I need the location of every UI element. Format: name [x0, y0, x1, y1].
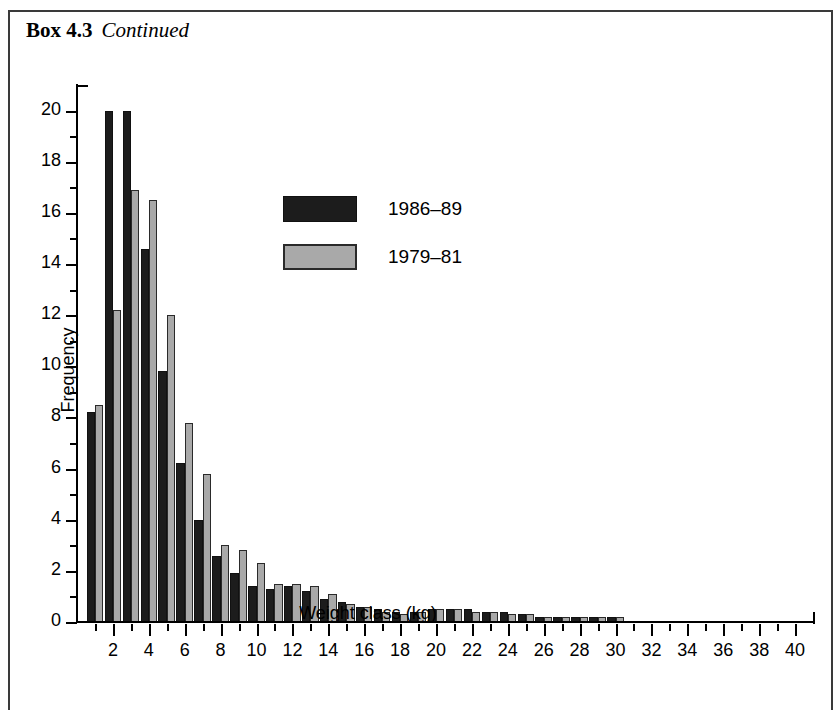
x-tick-minor: [669, 624, 671, 631]
x-tick-minor: [95, 624, 97, 631]
x-axis-end-tick: [813, 612, 815, 624]
y-tick-major: [66, 366, 77, 368]
x-tick-label: 38: [739, 640, 779, 661]
figure-page: Box 4.3Continued Frequency Weight class …: [0, 0, 837, 710]
bar: [274, 584, 282, 622]
x-tick-label: 34: [667, 640, 707, 661]
x-tick-major: [185, 624, 187, 636]
y-tick-minor: [70, 341, 77, 343]
bar: [257, 563, 265, 622]
bar: [203, 474, 211, 622]
x-tick-major: [580, 624, 582, 636]
x-tick-label: 20: [416, 640, 456, 661]
x-tick-minor: [741, 624, 743, 631]
x-tick-label: 40: [775, 640, 815, 661]
x-tick-major: [113, 624, 115, 636]
x-tick-minor: [382, 624, 384, 631]
x-tick-label: 18: [380, 640, 420, 661]
x-tick-label: 32: [631, 640, 671, 661]
x-tick-major: [328, 624, 330, 636]
y-axis-line: [76, 84, 78, 623]
y-tick-major: [66, 520, 77, 522]
x-tick-label: 28: [560, 640, 600, 661]
x-tick-minor: [274, 624, 276, 631]
x-tick-major: [149, 624, 151, 636]
legend-swatch: [283, 244, 357, 270]
y-tick-major: [66, 315, 77, 317]
bar: [284, 586, 292, 622]
y-axis-top-tick: [77, 85, 88, 87]
bar: [248, 586, 256, 622]
bar: [230, 573, 238, 622]
x-tick-minor: [167, 624, 169, 631]
bar: [239, 550, 247, 622]
bar: [176, 463, 184, 622]
y-tick-label: 2: [0, 559, 61, 580]
x-tick-label: 30: [596, 640, 636, 661]
x-tick-label: 26: [524, 640, 564, 661]
legend-swatch: [283, 196, 357, 222]
y-tick-major: [66, 213, 77, 215]
y-tick-label: 14: [0, 252, 61, 273]
y-tick-label: 4: [0, 508, 61, 529]
x-tick-minor: [203, 624, 205, 631]
x-tick-label: 14: [308, 640, 348, 661]
y-tick-minor: [70, 392, 77, 394]
y-tick-minor: [70, 443, 77, 445]
bar: [158, 371, 166, 622]
x-tick-label: 4: [129, 640, 169, 661]
y-tick-label: 6: [0, 457, 61, 478]
x-tick-minor: [490, 624, 492, 631]
legend-label: 1979–81: [388, 246, 462, 268]
bar: [141, 249, 149, 622]
bar: [149, 200, 157, 622]
x-tick-major: [292, 624, 294, 636]
bar: [105, 111, 113, 622]
x-tick-major: [723, 624, 725, 636]
x-tick-minor: [562, 624, 564, 631]
x-tick-major: [472, 624, 474, 636]
bar-group: [77, 85, 813, 622]
y-tick-major: [66, 622, 77, 624]
bar: [87, 412, 95, 622]
x-tick-label: 22: [452, 640, 492, 661]
x-tick-major: [400, 624, 402, 636]
x-tick-major: [651, 624, 653, 636]
y-tick-minor: [70, 136, 77, 138]
y-tick-major: [66, 162, 77, 164]
y-tick-minor: [70, 238, 77, 240]
bar: [123, 111, 131, 622]
x-tick-minor: [526, 624, 528, 631]
x-tick-minor: [598, 624, 600, 631]
y-tick-minor: [70, 596, 77, 598]
x-tick-minor: [346, 624, 348, 631]
y-tick-major: [66, 417, 77, 419]
y-tick-major: [66, 571, 77, 573]
y-tick-label: 8: [0, 405, 61, 426]
x-tick-label: 24: [488, 640, 528, 661]
y-tick-label: 16: [0, 201, 61, 222]
y-tick-label: 18: [0, 150, 61, 171]
x-tick-minor: [418, 624, 420, 631]
y-tick-label: 10: [0, 354, 61, 375]
box-title-bold: Box 4.3: [26, 18, 93, 42]
x-axis-title: Weight class (kg): [299, 603, 437, 624]
bar: [167, 315, 175, 622]
y-tick-label: 0: [0, 610, 61, 631]
x-tick-major: [257, 624, 259, 636]
bar: [131, 190, 139, 622]
y-tick-minor: [70, 494, 77, 496]
x-tick-minor: [705, 624, 707, 631]
x-tick-label: 36: [703, 640, 743, 661]
x-tick-minor: [131, 624, 133, 631]
box-title: Box 4.3Continued: [26, 18, 189, 43]
x-tick-major: [687, 624, 689, 636]
bar: [194, 520, 202, 622]
bar: [185, 423, 193, 622]
x-tick-minor: [239, 624, 241, 631]
x-tick-label: 10: [237, 640, 277, 661]
y-tick-label: 20: [0, 99, 61, 120]
plot-area: Frequency: [77, 85, 813, 622]
x-axis-line: [76, 621, 814, 623]
x-tick-minor: [310, 624, 312, 631]
